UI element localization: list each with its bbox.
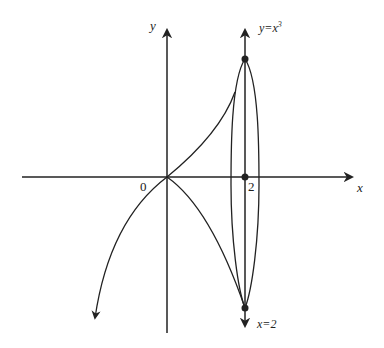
origin-label: 0 — [140, 179, 147, 194]
y-axis-label: y — [148, 18, 156, 33]
line-label: x=2 — [256, 317, 276, 331]
lower-curve-left — [95, 177, 167, 318]
cubic-curve — [167, 92, 235, 177]
tick-label-2: 2 — [248, 179, 255, 194]
bottom-point — [242, 305, 249, 312]
diagram-svg: y x 0 2 y=x3 x=2 — [0, 0, 384, 348]
cubic-label: y=x3 — [258, 20, 282, 35]
x-axis-label: x — [356, 180, 363, 195]
diagram-canvas: y x 0 2 y=x3 x=2 — [0, 0, 384, 348]
top-point — [242, 56, 249, 63]
